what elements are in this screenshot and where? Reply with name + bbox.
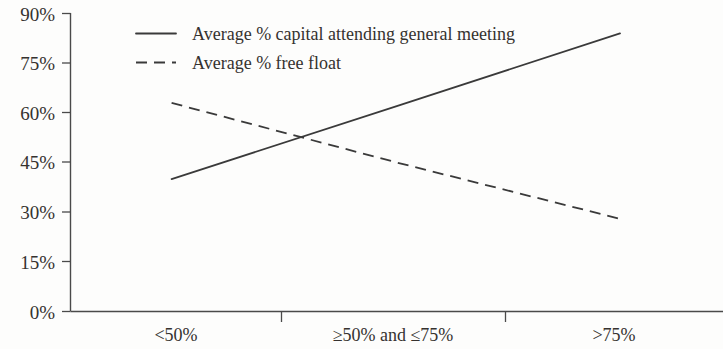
line-chart: 90% 75% 60% 45% 30% 15% 0% <50% ≥50% and… <box>0 0 723 349</box>
series-line-free-float <box>172 103 620 219</box>
legend: Average % capital attending general meet… <box>136 24 515 73</box>
y-tick-label: 15% <box>20 252 55 273</box>
y-tick-label: 60% <box>20 103 55 124</box>
x-axis-ticks <box>282 312 506 323</box>
y-tick-label: 30% <box>20 202 55 223</box>
x-axis-tick-labels: <50% ≥50% and ≤75% >75% <box>154 325 635 345</box>
y-axis-ticks <box>62 14 71 312</box>
chart-figure: 90% 75% 60% 45% 30% 15% 0% <50% ≥50% and… <box>0 0 723 349</box>
y-tick-label: 75% <box>20 53 55 74</box>
x-tick-label: <50% <box>154 325 197 345</box>
legend-label-free-float: Average % free float <box>192 53 341 73</box>
y-axis-tick-labels: 90% 75% 60% 45% 30% 15% 0% <box>20 4 55 323</box>
legend-label-capital-attending: Average % capital attending general meet… <box>192 24 515 44</box>
y-tick-label: 0% <box>30 302 56 323</box>
y-tick-label: 45% <box>20 152 55 173</box>
y-tick-label: 90% <box>20 4 55 25</box>
x-tick-label: >75% <box>592 325 635 345</box>
x-tick-label: ≥50% and ≤75% <box>333 325 454 345</box>
